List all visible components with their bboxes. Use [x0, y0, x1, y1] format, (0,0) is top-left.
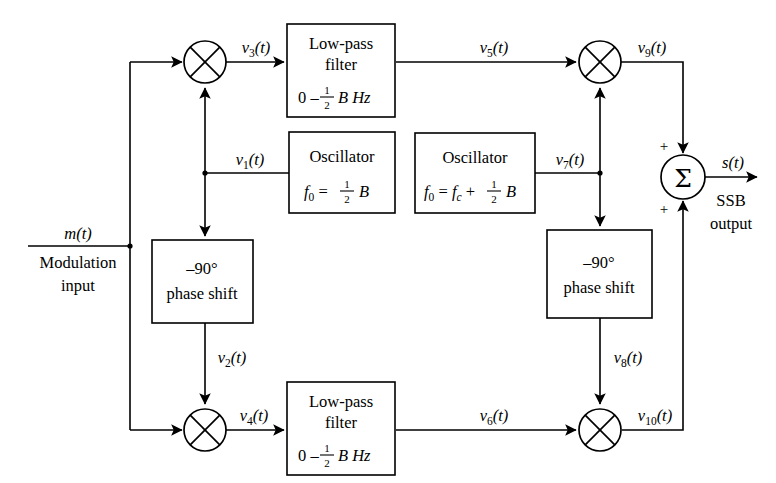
- junction-v1: [202, 170, 207, 175]
- signal-label-v9: v9(t): [638, 38, 667, 59]
- signal-label-v2: v2(t): [218, 348, 247, 369]
- osc-right-suffix: B: [506, 182, 516, 201]
- osc-left-eq: =: [314, 182, 327, 201]
- signal-label-v1: v1(t): [236, 150, 265, 171]
- output-caption-line2: output: [710, 214, 753, 233]
- lpf-bottom-line3-prefix: 0 –: [298, 446, 319, 465]
- svg-text:f0 =: f0 =: [304, 182, 328, 203]
- output-signal-s: s(t): [722, 153, 744, 172]
- signal-label-v7: v7(t): [556, 150, 585, 171]
- phase-right-line2: phase shift: [563, 278, 634, 297]
- phase-left-line1: –90°: [185, 259, 217, 278]
- lpf-bottom-frac-denominator: 2: [324, 457, 330, 469]
- input-caption-line1: Modulation: [40, 253, 117, 272]
- lpf-bottom-line1: Low-pass: [309, 392, 373, 411]
- osc-right-frac-denominator: 2: [491, 193, 497, 205]
- signal-label-v5: v5(t): [480, 38, 509, 59]
- mixer-top-left[interactable]: [184, 41, 226, 83]
- block-low-pass-filter-bottom[interactable]: Low-pass filter 0 – 1 2 B Hz: [287, 382, 395, 475]
- mixer-bottom-left[interactable]: [184, 409, 226, 451]
- block-oscillator-left[interactable]: Oscillator f0 = 1 2 B: [289, 132, 395, 213]
- signal-label-v3: v3(t): [242, 38, 271, 59]
- osc-right-eq: =: [434, 182, 452, 201]
- osc-right-line1: Oscillator: [442, 148, 508, 167]
- svg-text:m(t): m(t): [64, 224, 92, 243]
- osc-left-suffix: B: [359, 182, 369, 201]
- lpf-top-line2: filter: [325, 55, 358, 74]
- signal-label-v8: v8(t): [614, 348, 643, 369]
- signal-label-v10: v10(t): [638, 406, 672, 427]
- osc-right-frac-numerator: 1: [491, 178, 497, 190]
- lpf-bottom-line2: filter: [325, 413, 358, 432]
- block-oscillator-right[interactable]: Oscillator f0 = fc + 1 2 B: [415, 133, 535, 213]
- ssb-modulator-block-diagram: Low-pass filter 0 – 1 2 B Hz Oscillator …: [0, 0, 776, 483]
- input-label: m(t) Modulation input: [40, 224, 117, 295]
- block-phase-shift-right[interactable]: –90° phase shift: [547, 230, 652, 318]
- mixer-top-right[interactable]: [579, 41, 621, 83]
- summer-plus-top: +: [660, 138, 668, 154]
- osc-left-frac-denominator: 2: [344, 193, 350, 205]
- mixer-bottom-right[interactable]: [579, 409, 621, 451]
- wire-v9: [620, 62, 683, 153]
- signal-label-v6: v6(t): [480, 406, 509, 427]
- phase-left-line2: phase shift: [166, 284, 237, 303]
- summer-plus-bottom: +: [660, 201, 668, 217]
- junction-v7: [597, 170, 602, 175]
- phase-right-line1: –90°: [582, 253, 614, 272]
- input-caption-line2: input: [61, 276, 95, 295]
- lpf-top-line1: Low-pass: [309, 34, 373, 53]
- input-signal-m: m(t): [64, 224, 92, 243]
- osc-left-frac-numerator: 1: [344, 178, 350, 190]
- block-phase-shift-left[interactable]: –90° phase shift: [152, 240, 253, 323]
- lpf-top-line3-suffix: B Hz: [338, 88, 371, 107]
- osc-right-plus: +: [462, 182, 475, 201]
- junction-input: [127, 243, 132, 248]
- lpf-top-frac-denominator: 2: [324, 99, 330, 111]
- lpf-top-line3-prefix: 0 –: [298, 88, 319, 107]
- osc-left-line1: Oscillator: [309, 147, 375, 166]
- block-low-pass-filter-top[interactable]: Low-pass filter 0 – 1 2 B Hz: [287, 24, 395, 117]
- lpf-bottom-line3-suffix: B Hz: [338, 446, 371, 465]
- summer-sigma: Σ: [674, 164, 692, 193]
- output-caption-line1: SSB: [716, 191, 745, 210]
- signal-label-v4: v4(t): [240, 406, 269, 427]
- svg-text:s(t): s(t): [722, 153, 744, 172]
- output-label: s(t) SSB output: [710, 153, 753, 233]
- lpf-top-frac-numerator: 1: [324, 84, 330, 96]
- lpf-bottom-frac-numerator: 1: [324, 442, 330, 454]
